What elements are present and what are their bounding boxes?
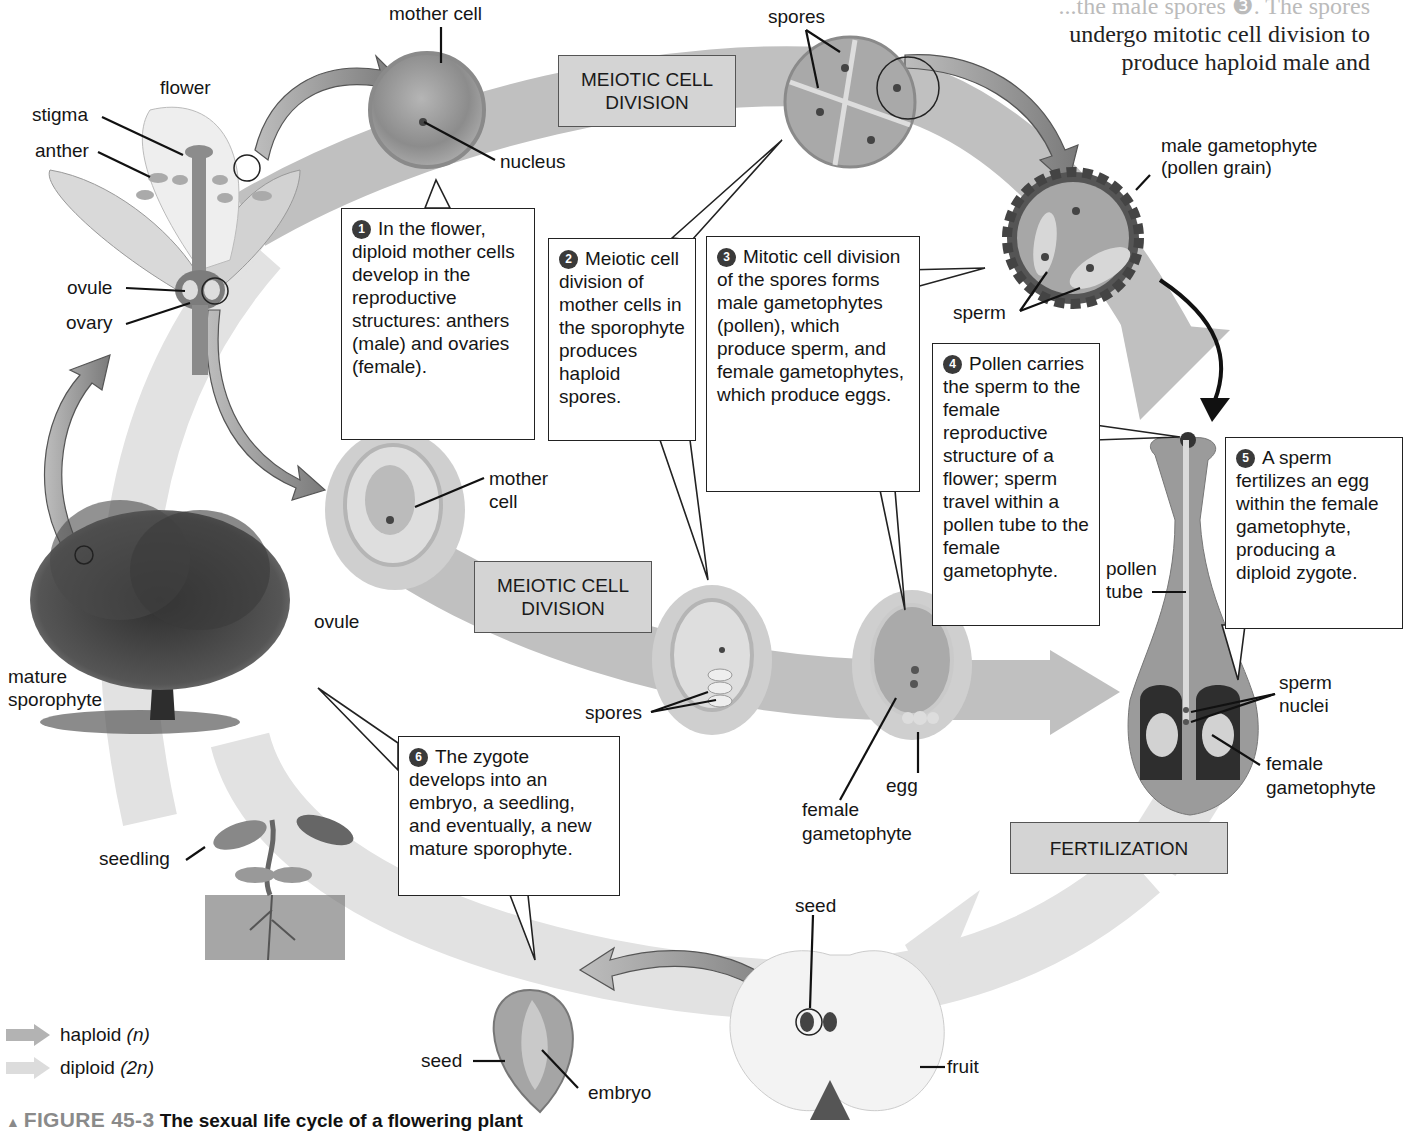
label-sperm: sperm: [953, 302, 1006, 324]
callout-text: The zygote develops into an embryo, a se…: [409, 746, 591, 859]
diploid-arrow-icon: [6, 1057, 50, 1079]
mother-cell-illustration: [370, 53, 484, 167]
label-male-gametophyte: male gametophyte (pollen grain): [1161, 135, 1317, 179]
label-female-gametophyte-right: female gametophyte: [1266, 752, 1376, 800]
legend: haploid (n) diploid (2n): [6, 1018, 154, 1084]
pollen-grain-illustration: [1007, 172, 1139, 304]
figure-number: FIGURE 45-3: [24, 1108, 155, 1131]
label-seed-embryo: seed: [421, 1050, 462, 1072]
callout-step-4: 4Pollen carries the sperm to the female …: [932, 343, 1100, 626]
callout-step-6: 6The zygote develops into an embryo, a s…: [398, 736, 620, 896]
book-text-line: ...the male spores ❸. The spores: [1059, 0, 1371, 20]
label-fruit: fruit: [947, 1056, 979, 1078]
step-number-badge: 2: [559, 250, 578, 269]
label-mother-cell-ovule: mother cell: [489, 467, 548, 513]
step-number-badge: 4: [943, 355, 962, 374]
label-nucleus: nucleus: [500, 151, 566, 173]
callout-text: Mitotic cell division of the spores form…: [717, 246, 904, 405]
label-seed-fruit: seed: [795, 895, 836, 917]
ovule-spores-illustration: [652, 585, 772, 735]
seed-illustration: [494, 990, 573, 1112]
label-egg: egg: [886, 775, 918, 797]
label-flower: flower: [160, 77, 211, 99]
label-ovule-flower: ovule: [67, 277, 112, 299]
step-number-badge: 5: [1236, 449, 1255, 468]
label-spores-top: spores: [768, 6, 825, 28]
haploid-arrowhead-mid: [1050, 650, 1120, 735]
callout-text: In the flower, diploid mother cells deve…: [352, 218, 515, 377]
label-ovary: ovary: [66, 312, 112, 334]
stage-fertilization: FERTILIZATION: [1010, 822, 1228, 874]
label-stigma: stigma: [32, 104, 88, 126]
pollination-arrowhead: [1200, 398, 1230, 422]
stage-meiotic-top: MEIOTIC CELL DIVISION: [558, 55, 736, 127]
book-text-line: undergo mitotic cell division to: [1059, 20, 1371, 48]
label-anther: anther: [35, 140, 89, 162]
label-embryo: embryo: [588, 1082, 651, 1104]
label-mature-sporophyte: mature sporophyte: [8, 665, 102, 711]
stage-meiotic-middle: MEIOTIC CELL DIVISION: [474, 561, 652, 633]
step-number-badge: 3: [717, 248, 736, 267]
label-sperm-nuclei: sperm nuclei: [1279, 671, 1332, 717]
callout-step-5: 5A sperm fertilizes an egg within the fe…: [1225, 437, 1403, 629]
step-number-badge: 6: [409, 748, 428, 767]
label-seedling: seedling: [99, 848, 170, 870]
book-body-text: ...the male spores ❸. The spores undergo…: [1059, 0, 1371, 76]
figure-title: The sexual life cycle of a flowering pla…: [160, 1110, 523, 1131]
label-ovule-mid: ovule: [314, 611, 359, 633]
label-mother-cell-top: mother cell: [389, 3, 482, 25]
caption-triangle-icon: ▲: [6, 1114, 20, 1130]
label-female-gametophyte-mid: female gametophyte: [802, 798, 912, 846]
legend-item-haploid: haploid (n): [6, 1018, 154, 1051]
book-text-line: produce haploid male and: [1059, 48, 1371, 76]
label-pollen-tube: pollen tube: [1106, 557, 1157, 603]
step-number-badge: 1: [352, 220, 371, 239]
callout-step-2: 2Meiotic cell division of mother cells i…: [548, 238, 696, 441]
fruit-illustration: [730, 951, 944, 1120]
label-spores-bottom: spores: [585, 702, 642, 724]
callout-text: A sperm fertilizes an egg within the fem…: [1236, 447, 1379, 583]
callout-step-1: 1In the flower, diploid mother cells dev…: [341, 208, 535, 440]
callout-text: Meiotic cell division of mother cells in…: [559, 248, 685, 407]
legend-item-diploid: diploid (2n): [6, 1051, 154, 1084]
ovule-mother-cell-illustration: [325, 430, 465, 590]
haploid-arrow-icon: [6, 1024, 50, 1046]
figure-caption: ▲FIGURE 45-3 The sexual life cycle of a …: [6, 1108, 523, 1132]
callout-text: Pollen carries the sperm to the female r…: [943, 353, 1089, 581]
callout-step-3: 3Mitotic cell division of the spores for…: [706, 236, 920, 492]
